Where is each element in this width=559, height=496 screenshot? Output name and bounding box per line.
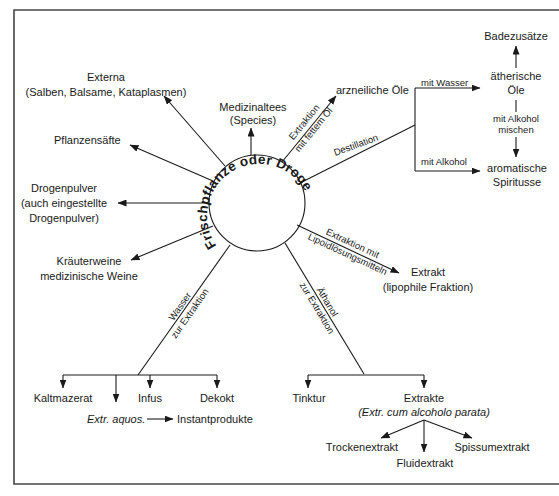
node-externa-title: Externa <box>87 71 126 83</box>
node-extrakt: Extrakt <box>411 266 445 278</box>
node-externa-detail: (Salben, Balsame, Kataplasmen) <box>26 86 187 98</box>
edge-spissumextrakt <box>424 420 472 438</box>
node-medizinaltees: Medizinaltees <box>219 101 287 113</box>
node-kraeuterweine: Kräuterweine <box>57 255 122 267</box>
node-medizinaltees-species: (Species) <box>230 114 276 126</box>
edge-label-mischen: mischen <box>498 124 533 135</box>
node-dekokt: Dekokt <box>200 392 234 404</box>
extraction-flow-diagram: Frischpflanze oder Droge Externa (Salben… <box>0 0 559 496</box>
edge-label-mit-alkohol: mit Alkohol <box>421 156 467 167</box>
node-aetherische-oele-2: Öle <box>507 84 524 96</box>
node-instantprodukte: Instantprodukte <box>177 413 253 425</box>
node-medizinische-weine: medizinische Weine <box>40 270 138 282</box>
node-drogenpulver: Drogenpulver <box>31 182 97 194</box>
node-badezusaetze: Badezusätze <box>484 30 548 42</box>
edge-trockenextrakt <box>381 420 424 438</box>
node-drogenpulver-detail-2: Drogenpulver) <box>29 212 99 224</box>
node-extr-cum-alcoholo-parata: (Extr. cum alcoholo parata) <box>358 406 490 418</box>
node-lipophile-fraktion: (lipophile Fraktion) <box>383 281 473 293</box>
node-arzneiliche-oele: arzneiliche Öle <box>336 84 409 96</box>
edge-externa <box>164 96 225 166</box>
node-trockenextrakt: Trockenextrakt <box>326 441 398 453</box>
edge-label-mit-alkohol-mischen: mit Alkohol <box>493 113 539 124</box>
node-drogenpulver-detail-1: (auch eingestellte <box>21 197 107 209</box>
node-pflanzensaefte: Pflanzensäfte <box>54 134 121 146</box>
edge-destillation <box>300 125 415 183</box>
edge-kraeuterweine <box>131 226 213 260</box>
node-tinktur: Tinktur <box>292 392 326 404</box>
edge-pflanzensaefte <box>130 145 213 181</box>
edge-label-destillation: Destillation <box>332 132 379 158</box>
node-extrakte: Extrakte <box>404 392 444 404</box>
node-aromatische-spirituose: aromatische <box>487 162 547 174</box>
node-spiritusse: Spiritusse <box>493 176 541 188</box>
node-infus: Infus <box>138 392 162 404</box>
node-aetherische-oele: ätherische <box>491 70 542 82</box>
node-fluidextrakt: Fluidextrakt <box>397 457 454 469</box>
node-spissumextrakt: Spissumextrakt <box>454 441 529 453</box>
node-extr-aquos: Extr. aquos. <box>87 413 145 425</box>
node-kaltmazerat: Kaltmazerat <box>34 392 93 404</box>
center-label: Frischpflanze oder Droge <box>195 152 316 252</box>
edge-label-mit-wasser: mit Wasser <box>421 77 468 88</box>
center-node: Frischpflanze oder Droge <box>195 152 316 252</box>
